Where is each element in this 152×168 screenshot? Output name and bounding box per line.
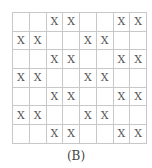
grid-cell: X [47,13,64,32]
grid-cell: X [130,88,147,107]
grid-cell [130,32,147,51]
grid-cell [47,106,64,125]
grid-cell [80,125,97,144]
grid-cell: X [63,125,80,144]
grid-cell [130,69,147,88]
grid-cell: X [114,125,131,144]
grid-cell [114,32,131,51]
grid-cell [13,88,30,107]
grid-cell: X [130,50,147,69]
grid-cell [13,125,30,144]
grid-cell: X [97,106,114,125]
grid-cell: X [30,69,47,88]
grid-cell [130,106,147,125]
grid-cell: X [114,13,131,32]
grid-cell: X [130,125,147,144]
grid-cell: X [80,32,97,51]
grid-cell: X [13,32,30,51]
x-pattern-grid: XXXXXXXXXXXXXXXXXXXXXXXXXXXX [12,12,147,144]
grid-cell [30,88,47,107]
grid-cell: X [30,106,47,125]
grid-cell: X [114,88,131,107]
grid-cell [30,50,47,69]
grid-cell: X [30,32,47,51]
grid-cell [97,88,114,107]
grid-cell [80,88,97,107]
grid-cell: X [47,125,64,144]
grid-cell [80,13,97,32]
grid-cell: X [80,69,97,88]
grid-cell [63,69,80,88]
grid-cell: X [47,88,64,107]
grid-cell [63,106,80,125]
grid-cell [114,106,131,125]
grid-cell: X [97,69,114,88]
grid-cell: X [63,13,80,32]
grid-cell: X [63,88,80,107]
grid-cell [13,13,30,32]
grid-cell: X [13,106,30,125]
grid-cell [47,69,64,88]
grid-cell: X [114,50,131,69]
grid-cell: X [63,50,80,69]
grid-cell [47,32,64,51]
grid-cell [97,13,114,32]
grid-cell [97,50,114,69]
grid-cell [13,50,30,69]
grid-cell: X [13,69,30,88]
grid-cell: X [130,13,147,32]
grid-cell: X [97,32,114,51]
grid-cell [80,50,97,69]
grid-cell [97,125,114,144]
grid-cell: X [80,106,97,125]
grid-cell [63,32,80,51]
grid-cell [114,69,131,88]
grid-cell: X [47,50,64,69]
figure-label: (B) [0,149,152,163]
grid-cell [30,125,47,144]
grid-cell [30,13,47,32]
